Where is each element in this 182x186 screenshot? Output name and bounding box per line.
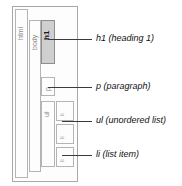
- annotation-h1: h1 (heading 1): [96, 34, 154, 43]
- leader-line-li: [62, 155, 92, 156]
- element-label-p: p: [44, 81, 51, 91]
- leader-line-ul: [62, 121, 92, 122]
- element-label-li: li: [59, 151, 65, 162]
- element-label-li: li: [59, 128, 65, 139]
- element-label-html: html: [17, 12, 24, 40]
- leader-line-p: [48, 87, 92, 88]
- annotation-p: p (paragraph): [96, 82, 151, 91]
- annotation-ul: ul (unordered list): [96, 116, 166, 125]
- element-label-body: body: [31, 24, 38, 50]
- element-label-ul: ul: [43, 105, 50, 117]
- html-structure-diagram: html body h1 p ul li li li h1 (heading 1…: [0, 0, 182, 186]
- annotation-li: li (list item): [96, 150, 139, 159]
- leader-line-h1: [48, 39, 92, 40]
- element-label-li: li: [59, 105, 65, 116]
- element-label-h1: h1: [43, 24, 51, 40]
